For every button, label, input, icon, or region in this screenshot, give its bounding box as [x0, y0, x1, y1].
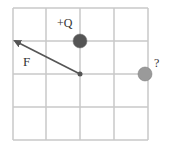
force-label: F [23, 54, 30, 69]
charge-unknown [138, 67, 152, 81]
charge-plus-q [73, 34, 87, 48]
test-point [78, 72, 83, 77]
charges: +Q? [57, 16, 159, 81]
charge-label-plus-q: +Q [57, 16, 73, 30]
charge-grid-diagram: F +Q? [0, 0, 169, 149]
charge-label-unknown: ? [154, 56, 159, 70]
force-vector: F [15, 41, 80, 74]
